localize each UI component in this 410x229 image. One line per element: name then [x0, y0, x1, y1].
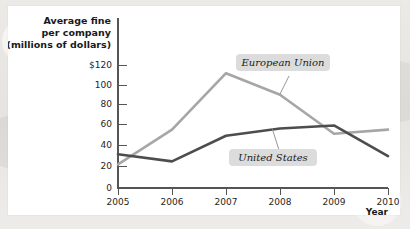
y-tick-label-100: 100: [95, 80, 112, 90]
leader-line-united-states: [272, 128, 279, 150]
y-tick-label-20: 20: [101, 161, 113, 171]
y-axis-title-line-1: Average fine: [43, 15, 111, 26]
x-tick-label-2005: 2005: [107, 197, 130, 207]
y-axis-ticks: [118, 65, 127, 166]
y-tick-label-40: 40: [101, 140, 113, 150]
x-axis-title: Year: [365, 207, 389, 215]
x-axis-ticks: [118, 188, 388, 195]
leader-line-european-union: [280, 76, 289, 94]
x-tick-label-2006: 2006: [161, 197, 184, 207]
annotation-label-european-union: European Union: [241, 57, 325, 68]
y-tick-label-80: 80: [101, 99, 113, 109]
y-axis-title-line-3: (millions of dollars): [8, 39, 111, 50]
x-tick-label-2007: 2007: [215, 197, 238, 207]
line-chart: Average fine per company (millions of do…: [8, 6, 400, 215]
x-tick-label-2008: 2008: [269, 197, 292, 207]
y-axis-title-line-2: per company: [42, 27, 112, 38]
y-tick-label-0: 0: [106, 183, 112, 193]
x-tick-label-2009: 2009: [323, 197, 346, 207]
chart-figure-card: Average fine per company (millions of do…: [8, 6, 400, 215]
y-tick-label-60: 60: [101, 119, 113, 129]
y-tick-label-120: $120: [89, 60, 112, 70]
annotation-label-united-states: United States: [238, 152, 307, 163]
x-tick-label-2010: 2010: [377, 197, 400, 207]
